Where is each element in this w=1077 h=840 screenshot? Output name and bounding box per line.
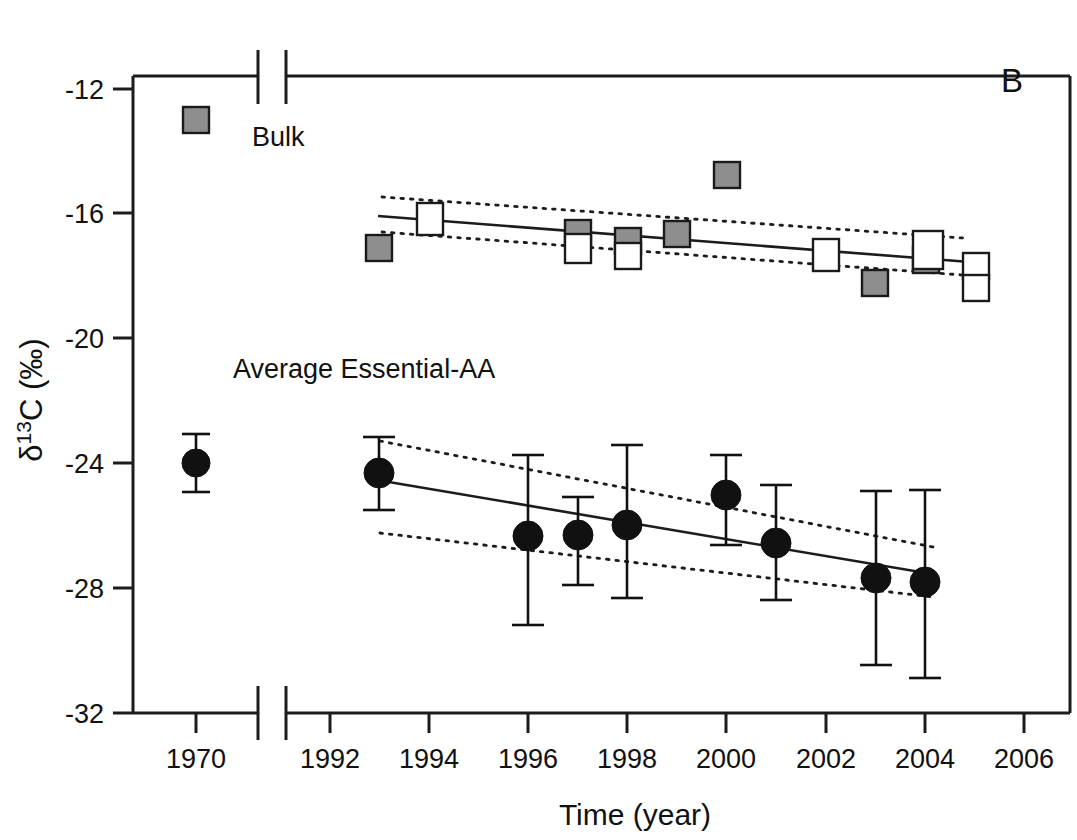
bulk-point-2003 bbox=[862, 270, 888, 296]
y-axis-ticks bbox=[113, 89, 133, 713]
y-tick-label-1: -16 bbox=[65, 199, 104, 229]
essential-aa-point-2000 bbox=[710, 455, 742, 545]
essential-aa-ci-lower bbox=[380, 533, 933, 597]
x-tick-label-3: 1996 bbox=[498, 744, 558, 774]
x-axis-tick-labels: 1970 1992 1994 1996 1998 2000 2002 2004 … bbox=[166, 744, 1054, 774]
y-tick-label-0: -12 bbox=[65, 75, 104, 105]
essential-aa-point-1998 bbox=[611, 445, 643, 598]
x-axis-title: Time (year) bbox=[559, 798, 711, 831]
bulk-open-point-2003 bbox=[913, 231, 943, 269]
y-axis-title: δ13C (‰) bbox=[12, 338, 49, 461]
essential-aa-point-1970 bbox=[182, 434, 210, 492]
x-tick-label-2: 1994 bbox=[399, 744, 459, 774]
bulk-open-point-2005 bbox=[963, 275, 989, 301]
x-tick-label-8: 2006 bbox=[994, 744, 1054, 774]
y-tick-label-3: -24 bbox=[65, 449, 104, 479]
y-tick-label-4: -28 bbox=[65, 574, 104, 604]
essential-aa-confidence-bands bbox=[380, 441, 933, 597]
bulk-point-2000 bbox=[714, 162, 740, 188]
y-tick-label-5: -32 bbox=[65, 699, 104, 729]
bulk-open-markers bbox=[417, 203, 989, 301]
essential-aa-point-2004 bbox=[909, 490, 941, 678]
x-tick-label-4: 1998 bbox=[597, 744, 657, 774]
x-tick-label-7: 2004 bbox=[895, 744, 955, 774]
series-annotation-essential-aa: Average Essential-AA bbox=[233, 354, 495, 384]
essential-aa-point-2001 bbox=[760, 485, 792, 600]
bulk-open-point-1996 bbox=[565, 234, 591, 263]
series-annotation-bulk: Bulk bbox=[252, 122, 305, 152]
bulk-point-1993 bbox=[366, 235, 392, 261]
essential-aa-regression-line bbox=[377, 480, 938, 575]
essential-aa-point-1993 bbox=[363, 437, 395, 510]
bulk-open-point-1994 bbox=[417, 203, 443, 235]
panel-label-b: B bbox=[1001, 62, 1023, 99]
x-tick-label-6: 2002 bbox=[796, 744, 856, 774]
essential-aa-point-1996 bbox=[512, 455, 544, 625]
x-axis-ticks bbox=[196, 713, 1024, 733]
x-tick-label-0: 1970 bbox=[166, 744, 226, 774]
essential-aa-point-1997 bbox=[562, 497, 594, 585]
plot-frame bbox=[133, 50, 1070, 740]
y-axis-title-group: δ13C (‰) bbox=[12, 338, 49, 461]
bulk-open-point-2002 bbox=[813, 239, 839, 271]
x-tick-label-5: 2000 bbox=[696, 744, 756, 774]
x-tick-label-1: 1992 bbox=[300, 744, 360, 774]
bulk-open-point-1997 bbox=[615, 243, 641, 269]
bulk-point-1998 bbox=[664, 221, 690, 247]
figure-panel-b: -12 -16 -20 -24 -28 -32 1970 1992 1994 1… bbox=[0, 0, 1077, 840]
y-tick-label-2: -20 bbox=[65, 324, 104, 354]
essential-aa-point-2003 bbox=[860, 491, 892, 665]
delta13c-scatter-chart: -12 -16 -20 -24 -28 -32 1970 1992 1994 1… bbox=[0, 0, 1077, 840]
bulk-point-1970 bbox=[183, 107, 209, 133]
y-axis-tick-labels: -12 -16 -20 -24 -28 -32 bbox=[65, 75, 104, 729]
